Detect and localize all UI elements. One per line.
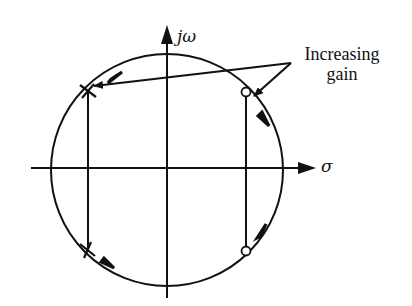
increasing-gain-line1: Increasing	[294, 44, 390, 64]
real-axis	[31, 162, 316, 174]
imaginary-axis-arrow-icon	[161, 25, 173, 44]
real-axis-label: σ	[321, 156, 333, 176]
real-axis-arrow-icon	[298, 162, 316, 174]
imaginary-axis-label: jω	[177, 26, 196, 46]
arrow-upper-right-icon	[258, 112, 269, 126]
increasing-gain-label: Increasing gain	[294, 44, 390, 84]
zero-marker-upper	[242, 88, 251, 97]
increasing-gain-line2: gain	[294, 64, 390, 84]
locus-direction-arrows	[101, 72, 269, 268]
arrow-lower-right-icon	[257, 224, 266, 238]
increasing-gain-callout	[94, 63, 291, 96]
arrow-upper-left-icon	[108, 72, 122, 83]
zero-marker-lower	[242, 247, 251, 256]
imaginary-axis	[161, 25, 173, 298]
